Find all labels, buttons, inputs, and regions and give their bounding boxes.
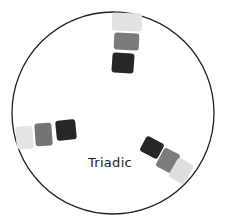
swatch-dark: [111, 52, 134, 73]
swatch-dark: [55, 119, 77, 141]
swatch-mid: [34, 122, 53, 146]
triadic-diagram: Triadic: [0, 0, 225, 224]
swatch-light: [112, 12, 143, 31]
color-wheel: [0, 0, 225, 224]
swatch-mid: [114, 32, 140, 50]
swatch-group-top: [111, 12, 142, 73]
scheme-label: Triadic: [80, 155, 140, 170]
swatch-group-left: [15, 119, 77, 150]
swatch-group-right: [139, 135, 194, 185]
swatch-light: [15, 125, 34, 149]
wheel-outline: [12, 12, 214, 214]
